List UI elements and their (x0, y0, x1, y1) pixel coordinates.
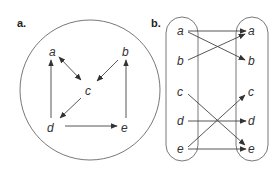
node-d: d (47, 121, 54, 135)
right-node-b: b (248, 54, 255, 68)
left-node-c: c (177, 85, 183, 99)
panel-b-label: b. (151, 17, 161, 29)
panel-b: b. a b c d e a b c d e (151, 17, 268, 161)
panel-a-label: a. (17, 17, 26, 29)
edge-b-to-c (97, 60, 118, 81)
left-node-d: d (177, 114, 184, 128)
left-node-a: a (177, 24, 184, 38)
node-a: a (49, 45, 56, 59)
right-node-e: e (248, 142, 255, 156)
left-node-b: b (177, 54, 184, 68)
edge-c-to-e (188, 94, 245, 145)
right-node-a: a (248, 24, 255, 38)
node-e: e (121, 121, 128, 135)
node-c: c (85, 84, 91, 98)
edge-c-to-d (60, 98, 81, 118)
left-node-e: e (177, 142, 184, 156)
right-node-c: c (248, 85, 254, 99)
panel-a: a. a b c d e (17, 17, 160, 160)
node-b: b (122, 45, 129, 59)
right-node-d: d (248, 114, 255, 128)
edge-a-c-bidirectional (59, 57, 81, 80)
diagram-canvas: a. a b c d e b. a b c d e a b c d e (0, 0, 278, 170)
